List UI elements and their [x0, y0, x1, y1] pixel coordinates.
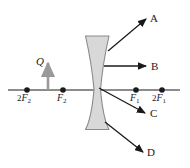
point-label-two-f1: 2F1 [152, 93, 166, 105]
object-label-Q: Q [36, 56, 44, 67]
ray-d-line [105, 122, 143, 152]
point-label-two-f2-sub: 2 [28, 97, 32, 105]
ray-label-d: D [147, 147, 155, 158]
diverging-lens-shape [86, 36, 110, 130]
point-label-two-f2: 2F2 [17, 93, 31, 105]
ray-label-c: C [150, 108, 157, 119]
diagram-canvas [0, 0, 190, 168]
ray-a-line [108, 19, 146, 51]
ray-label-a: A [150, 13, 158, 24]
point-label-two-f1-sub: 1 [163, 97, 167, 105]
point-label-f2-sub: 2 [63, 97, 67, 105]
point-label-f1-sub: 1 [136, 97, 140, 105]
point-label-f2: F2 [57, 93, 67, 105]
ray-label-b: B [151, 61, 158, 72]
point-label-f1: F1 [130, 93, 140, 105]
optics-ray-diagram-figure: Q 2F2 F2 F1 2F1 A B C D [0, 0, 190, 168]
